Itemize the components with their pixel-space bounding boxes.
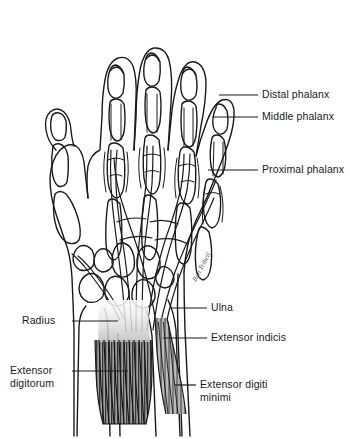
middle-finger-outline — [134, 48, 172, 150]
label-extensor-digitorum: Extensor digitorum — [10, 364, 54, 389]
label-distal-phalanx: Distal phalanx — [262, 88, 329, 101]
label-ulna: Ulna — [211, 301, 233, 314]
intertendinous-connection-3 — [120, 236, 152, 240]
ring-proximal-phalanx — [178, 147, 196, 204]
ring-middle-phalanx — [181, 101, 197, 147]
label-middle-phalanx: Middle phalanx — [262, 110, 334, 123]
label-proximal-phalanx: Proximal phalanx — [262, 163, 344, 176]
label-radius: Radius — [22, 314, 55, 327]
index-finger-outline — [87, 57, 136, 198]
skin-outline-left — [50, 145, 88, 436]
carpal-trapezoid — [94, 249, 113, 272]
band-index — [111, 104, 121, 140]
label-extensor-digiti-minimi: Extensor digiti minimi — [200, 378, 267, 403]
band-middle — [147, 94, 157, 132]
thumb-distal-phalanx — [51, 113, 67, 141]
ring-distal-tuft — [183, 69, 196, 75]
little-distal-phalanx — [213, 104, 228, 134]
label-extensor-indicis: Extensor indicis — [211, 331, 286, 344]
anatomical-figure: Ron Tribell Distal phalanx Middle phalan… — [0, 0, 349, 439]
muscle-belly-group — [95, 300, 186, 424]
band-ring — [184, 108, 193, 146]
intertendinous-connection-2 — [150, 220, 178, 224]
ring-metacarpal — [175, 203, 192, 264]
